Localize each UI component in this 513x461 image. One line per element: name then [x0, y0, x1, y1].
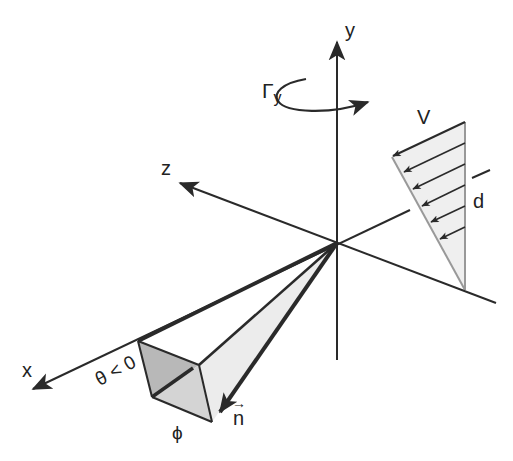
normal-label: →n	[233, 408, 244, 428]
coordinate-diagram	[0, 0, 513, 461]
z-axis-label: z	[161, 158, 171, 178]
rotation-subscript: y	[274, 89, 282, 106]
normal-vector-arrow-icon: →	[232, 396, 246, 410]
depth-label: d	[473, 191, 484, 211]
rotation-arrow-icon	[277, 79, 368, 111]
x-axis-label: x	[22, 360, 32, 380]
rotation-symbol: Γ	[262, 79, 274, 102]
y-axis-label: y	[345, 20, 355, 40]
rotation-label: Γy	[262, 80, 282, 101]
velocity-label: V	[417, 107, 430, 127]
normal-vector	[220, 243, 337, 412]
phi-label: ϕ	[172, 423, 183, 442]
